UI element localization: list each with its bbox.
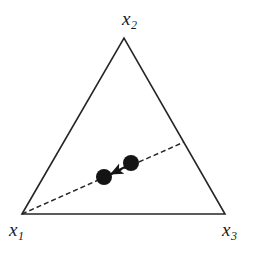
simplex-triangle: [22, 38, 225, 214]
target-point-marker: [96, 169, 112, 185]
current-point-marker: [123, 155, 139, 171]
vertex-label-x2-subscript: 2: [130, 18, 137, 32]
vertex-label-x1: x1: [9, 220, 24, 242]
vertex-label-x1-subscript: 1: [17, 229, 24, 243]
diagram-canvas: [0, 0, 257, 257]
vertex-label-x2: x2: [122, 9, 137, 31]
ternary-diagram-figure: x1 x2 x3: [0, 0, 257, 257]
vertex-label-x3-subscript: 3: [230, 229, 237, 243]
vertex-label-x3: x3: [222, 220, 237, 242]
